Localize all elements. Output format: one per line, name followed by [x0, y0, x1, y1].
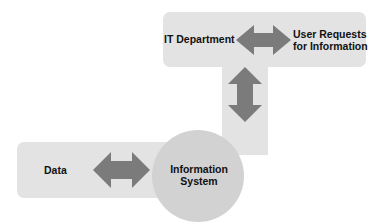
- user-requests-line1: User Requests: [293, 28, 365, 40]
- it-system-double-arrow: [228, 67, 262, 122]
- user-requests-label: User Requests for Information: [293, 28, 365, 52]
- data-system-double-arrow: [93, 152, 150, 188]
- information-system-line1: Information: [160, 163, 238, 175]
- information-system-label: Information System: [160, 163, 238, 187]
- it-users-double-arrow: [236, 25, 291, 55]
- data-label: Data: [44, 164, 67, 176]
- it-department-label: IT Department: [164, 33, 235, 45]
- information-system-line2: System: [160, 175, 238, 187]
- user-requests-line2: for Information: [293, 40, 365, 52]
